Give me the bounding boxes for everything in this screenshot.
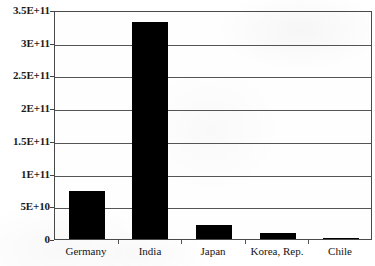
y-tick-label: 2.5E+11 [0, 70, 50, 81]
x-tick-mark [245, 240, 246, 244]
cut-off-chart-title [58, 0, 288, 2]
bar-germany [69, 191, 105, 239]
y-tick-label: 3E+11 [0, 38, 50, 49]
x-tick-mark [181, 240, 182, 244]
x-axis-label-germany: Germany [54, 245, 118, 258]
plot-area [54, 11, 372, 240]
x-tick-mark [118, 240, 119, 244]
y-tick-label: 0 [0, 234, 50, 245]
x-axis-label-japan: Japan [181, 245, 245, 258]
bar-japan [196, 225, 232, 239]
x-axis-label-chile: Chile [308, 245, 372, 258]
gridline-1E+11 [55, 176, 371, 177]
gridline-1.5E+11 [55, 143, 371, 144]
y-tick-label: 1.5E+11 [0, 136, 50, 147]
bar-korea-rep [260, 233, 296, 239]
gridline-3E+11 [55, 45, 371, 46]
gridline-2.5E+11 [55, 77, 371, 78]
y-tick-label: 2E+11 [0, 103, 50, 114]
bar-chile [323, 238, 359, 239]
y-tick-label: 3.5E+11 [0, 5, 50, 16]
bar-chart-figure: 05E+101E+111.5E+112E+112.5E+113E+113.5E+… [0, 0, 375, 266]
y-tick-mark [50, 240, 54, 241]
x-tick-mark [308, 240, 309, 244]
bar-india [132, 22, 168, 239]
x-axis-label-korea-rep: Korea, Rep. [245, 245, 309, 258]
gridline-2E+11 [55, 110, 371, 111]
y-tick-label: 1E+11 [0, 169, 50, 180]
y-tick-label: 5E+10 [0, 201, 50, 212]
x-axis-label-india: India [118, 245, 182, 258]
